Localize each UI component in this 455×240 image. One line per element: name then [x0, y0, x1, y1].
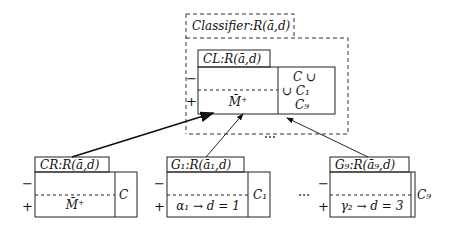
arrow-g9-to-cl — [287, 118, 368, 157]
cl-minus: − — [186, 72, 197, 85]
g9-side: C₉ — [417, 189, 431, 201]
g9-plus: + — [318, 200, 329, 213]
g1-box-title: G₁:R(ā₁,d) — [171, 159, 231, 171]
cl-side-bot: C₉ — [295, 99, 309, 111]
cl-plus: + — [186, 95, 197, 108]
g1-side: C₁ — [253, 189, 267, 201]
arrow-cr-to-cl — [72, 113, 213, 157]
cr-side: C — [119, 189, 128, 201]
g1-minus: − — [154, 177, 165, 190]
cl-side-mid: ∪ C₁ — [282, 85, 310, 97]
arrow-g1-to-cl — [206, 114, 243, 157]
g1-content: α₁ → d = 1 — [176, 200, 240, 212]
g9-content: γ₂ → d = 3 — [341, 200, 404, 212]
bottom-ellipsis: ⋯ — [298, 189, 310, 201]
cr-plus: + — [22, 200, 33, 213]
g9-box-title: G₉:R(ā₉,d) — [335, 159, 395, 171]
classifier-title: Classifier:R(ā,d) — [192, 20, 290, 32]
cl-side-top: C ∪ — [293, 71, 316, 83]
cl-box-title: CL:R(ā,d) — [203, 53, 261, 65]
g9-minus: − — [318, 177, 329, 190]
cl-content: M̄⁺ — [229, 96, 248, 108]
cr-box-title: CR:R(ā,d) — [40, 159, 99, 171]
cr-content: M̄⁺ — [66, 199, 85, 211]
cr-minus: − — [22, 177, 33, 190]
classifier-dots: ⋯ — [264, 131, 276, 143]
g1-plus: + — [154, 200, 165, 213]
